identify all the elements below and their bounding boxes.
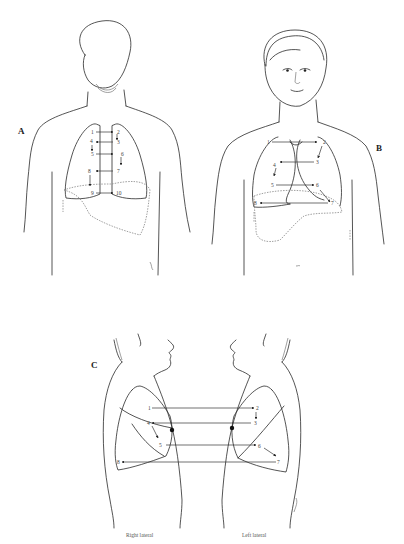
a-point-6: 6 [121,151,124,157]
c-point-3: 3 [254,420,257,426]
b-point-5: 5 [271,182,274,188]
c-point-8: 8 [117,459,120,465]
a-point-8: 8 [88,168,91,174]
b-point-7: 7 [331,200,334,206]
b-point-1: 1 [267,139,270,145]
panel-c-left-lateral-figure [222,334,301,528]
a-point-9: 9 [91,190,94,196]
figure-illustration: 1 2 3 4 5 6 7 8 9 10 [0,0,404,544]
panel-a-figure: 1 2 3 4 5 6 7 8 9 10 [24,21,190,275]
a-point-3: 3 [117,139,120,145]
a-point-1: 1 [91,129,94,135]
a-point-4: 4 [90,138,93,144]
a-point-2: 2 [117,129,120,135]
panel-c-right-lateral-figure [103,334,182,528]
a-point-5: 5 [91,151,94,157]
panel-b-figure: 1 2 3 4 5 6 7 8 [212,30,384,275]
c-point-4: 4 [147,420,150,426]
c-point-7: 7 [277,459,280,465]
b-point-8: 8 [254,200,257,206]
a-point-10: 10 [116,190,122,196]
panel-c-arrows [122,408,276,462]
a-point-7: 7 [117,168,120,174]
c-point-1: 1 [148,405,151,411]
c-point-6: 6 [258,443,261,449]
c-point-2: 2 [256,405,259,411]
b-point-2: 2 [323,139,326,145]
b-point-4: 4 [273,162,276,168]
b-point-3: 3 [316,159,319,165]
c-point-5: 5 [159,442,162,448]
b-point-6: 6 [316,182,319,188]
